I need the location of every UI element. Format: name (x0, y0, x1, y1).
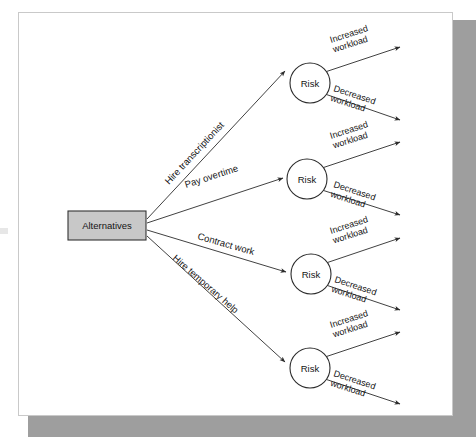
branch-edge-1 (147, 71, 285, 219)
outcome-label-2-increased: Increased workload (328, 119, 373, 151)
risk-node-2-group: Risk Increased workload Decreased worklo… (287, 119, 400, 215)
outcome-label-1-decreased: Decreased workload (328, 83, 377, 116)
risk-node-2-label: Risk (298, 174, 317, 185)
risk-node-3-label: Risk (302, 269, 321, 280)
outcome-label-4-decreased: Decreased workload (328, 368, 377, 401)
branch-label-hire-temporary-help: Hire temporary help (171, 252, 241, 315)
branch-label-pay-overtime: Pay overtime (183, 162, 239, 190)
decision-tree-diagram: Alternatives Hire transcriptionist Pay o… (0, 0, 476, 437)
outcome-label-3-decreased: Decreased workload (329, 274, 378, 307)
outcome-label-3-increased: Increased workload (328, 214, 373, 246)
branch-label-4-group: Hire temporary help (171, 252, 241, 315)
branch-label-contract-work: Contract work (196, 230, 256, 257)
risk-node-3-group: Risk Increased workload Decreased worklo… (291, 214, 400, 310)
risk-node-1-label: Risk (301, 78, 320, 89)
branch-label-2-group: Pay overtime (183, 162, 239, 190)
root-node-label: Alternatives (82, 220, 132, 231)
risk-node-4-group: Risk Increased workload Decreased worklo… (290, 308, 400, 404)
root-node-alternatives: Alternatives (68, 211, 146, 240)
branch-label-3-group: Contract work (196, 230, 256, 257)
risk-node-1-group: Risk Increased workload Decreased worklo… (290, 23, 400, 120)
outcome-label-2-decreased: Decreased workload (328, 179, 377, 212)
branch-edges (147, 71, 286, 362)
outcome-label-1-increased: Increased workload (328, 23, 373, 55)
outcome-label-4-increased: Increased workload (328, 308, 373, 340)
risk-node-4-label: Risk (301, 363, 320, 374)
figure-canvas: Alternatives Hire transcriptionist Pay o… (0, 0, 476, 437)
